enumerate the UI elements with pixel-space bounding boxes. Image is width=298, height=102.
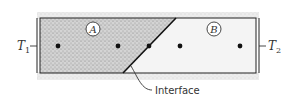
node-dot: [116, 44, 121, 49]
region-b-label: B: [209, 24, 217, 35]
region-a-label: A: [88, 24, 96, 35]
node-dot: [178, 44, 183, 49]
t1-label: T1: [17, 39, 30, 55]
t2-label: T2: [268, 39, 281, 55]
interface-label: Interface: [155, 85, 200, 96]
composite-wall-diagram: A B T1 T2 Interface: [0, 0, 298, 102]
node-dot: [56, 44, 61, 49]
node-dot: [238, 44, 243, 49]
node-dot: [147, 44, 152, 49]
